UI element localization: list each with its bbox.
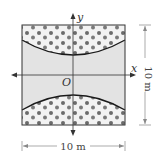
height-label: 10 m [143, 66, 154, 92]
y-axis-top-arrow-icon [71, 13, 76, 19]
height-arrow-top-icon [143, 26, 147, 31]
width-dimension: 10 m [22, 141, 125, 152]
x-axis-label: x [131, 62, 138, 75]
diagram: x y O 10 m 10 m [0, 0, 163, 163]
y-axis-label: y [76, 11, 84, 24]
width-arrow-right-icon [119, 144, 124, 148]
height-arrow-bottom-icon [143, 119, 147, 124]
y-axis-bottom-arrow-icon [71, 130, 76, 136]
width-arrow-left-icon [23, 144, 28, 148]
width-label: 10 m [60, 141, 86, 152]
x-axis-left-arrow-icon [11, 73, 17, 78]
height-dimension: 10 m [139, 25, 154, 125]
origin-label: O [62, 76, 71, 89]
